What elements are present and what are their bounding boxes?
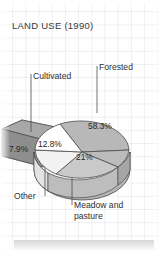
label-forested: Forested — [99, 62, 133, 73]
value-forested: 58.3% — [88, 121, 112, 131]
figure-canvas: LAND USE (1990) Cultivated Forested Othe… — [0, 0, 162, 261]
label-meadow-line2: pasture — [74, 211, 103, 222]
label-other: Other — [14, 191, 36, 202]
label-cultivated: Cultivated — [33, 71, 71, 82]
value-meadow: 21% — [76, 152, 93, 162]
value-other: 7.9% — [9, 144, 28, 154]
bottom-bar-shadow — [16, 249, 154, 251]
pie-chart-graphic — [0, 0, 162, 261]
bottom-bar — [14, 240, 154, 249]
page-title: LAND USE (1990) — [12, 20, 93, 31]
label-meadow-line1: Meadow and — [74, 200, 123, 211]
value-cultivated: 12.8% — [38, 139, 62, 149]
